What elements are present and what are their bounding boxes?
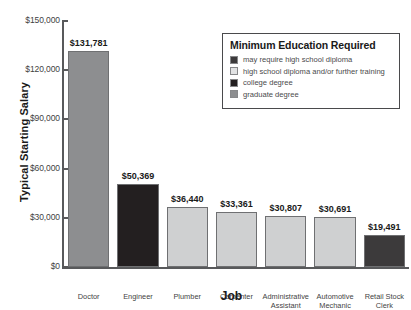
legend: Minimum Education Required may require h… bbox=[222, 33, 400, 109]
legend-item-label: high school diploma and/or further train… bbox=[243, 67, 385, 76]
bar-value-label: $50,369 bbox=[105, 171, 170, 181]
bar[interactable] bbox=[216, 212, 257, 267]
y-axis-tick-label: $0 bbox=[4, 261, 60, 271]
bar-group[interactable]: $131,781Doctor bbox=[68, 21, 109, 267]
y-axis-tick bbox=[62, 168, 68, 170]
legend-title: Minimum Education Required bbox=[230, 39, 392, 51]
bar-group[interactable]: $50,369Engineer bbox=[117, 21, 158, 267]
y-axis-tick bbox=[62, 20, 68, 22]
bar-value-label: $131,781 bbox=[56, 38, 121, 48]
legend-item-label: college degree bbox=[243, 78, 293, 87]
legend-item-label: may require high school diploma bbox=[243, 55, 352, 64]
legend-color-swatch-icon bbox=[230, 56, 238, 64]
bar-value-label: $30,691 bbox=[302, 204, 367, 214]
y-axis-tick-label: $90,000 bbox=[4, 113, 60, 123]
legend-entries: may require high school diplomahigh scho… bbox=[230, 55, 392, 99]
legend-color-swatch-icon bbox=[230, 90, 238, 98]
y-axis-tick-label: $60,000 bbox=[4, 163, 60, 173]
y-axis-tick bbox=[62, 118, 68, 120]
y-axis-tick bbox=[62, 217, 68, 219]
bar[interactable] bbox=[265, 216, 306, 267]
y-axis-tick-label: $120,000 bbox=[4, 64, 60, 74]
bar[interactable] bbox=[364, 235, 405, 267]
legend-color-swatch-icon bbox=[230, 79, 238, 87]
legend-item-label: graduate degree bbox=[243, 90, 299, 99]
x-axis-title: Job bbox=[0, 289, 411, 303]
legend-item[interactable]: college degree bbox=[230, 78, 392, 87]
bar[interactable] bbox=[117, 184, 158, 267]
bar[interactable] bbox=[167, 207, 208, 267]
y-axis-tick bbox=[62, 266, 68, 268]
bar[interactable] bbox=[68, 51, 109, 267]
bar[interactable] bbox=[314, 217, 355, 267]
y-axis-tick-labels: $0$30,000$60,000$90,000$120,000$150,000 bbox=[0, 0, 60, 306]
y-axis-tick bbox=[62, 69, 68, 71]
y-axis-tick-label: $150,000 bbox=[4, 15, 60, 25]
legend-item[interactable]: high school diploma and/or further train… bbox=[230, 67, 392, 76]
y-axis-tick-label: $30,000 bbox=[4, 212, 60, 222]
bar-value-label: $19,491 bbox=[352, 222, 411, 232]
legend-item[interactable]: may require high school diploma bbox=[230, 55, 392, 64]
x-axis-line bbox=[62, 267, 409, 269]
bar-group[interactable]: $36,440Plumber bbox=[167, 21, 208, 267]
legend-item[interactable]: graduate degree bbox=[230, 90, 392, 99]
legend-color-swatch-icon bbox=[230, 67, 238, 75]
